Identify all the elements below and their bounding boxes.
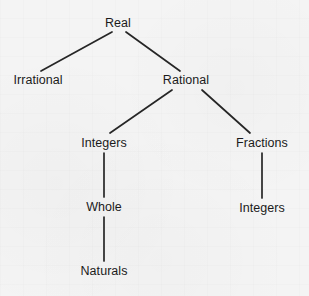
tree-node-integers2: Integers [239, 201, 285, 215]
tree-node-fractions: Fractions [236, 136, 288, 150]
tree-node-rational: Rational [163, 73, 209, 87]
tree-edge-real-irrational [41, 32, 112, 71]
tree-node-real: Real [105, 16, 131, 30]
tree-node-integers1: Integers [81, 136, 127, 150]
tree-node-whole: Whole [86, 200, 122, 214]
tree-node-irrational: Irrational [13, 73, 62, 87]
tree-edge-rational-fractions [202, 90, 250, 133]
tree-edge-rational-integers [110, 90, 172, 133]
edge-group [41, 32, 262, 261]
tree-edge-real-rational [126, 32, 180, 71]
number-system-tree-diagram: RealIrrationalRationalIntegersFractionsW… [0, 0, 309, 296]
tree-node-naturals: Naturals [81, 264, 128, 278]
